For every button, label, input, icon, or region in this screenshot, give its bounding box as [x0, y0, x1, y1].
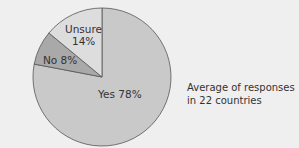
annotation-line-1: Average of responses: [187, 81, 295, 94]
pie-chart: Yes 78% No 8% Unsure 14%: [0, 0, 299, 148]
label-unsure-2: 14%: [72, 35, 95, 47]
annotation-line-2: in 22 countries: [187, 94, 295, 107]
chart-annotation: Average of responses in 22 countries: [187, 81, 295, 107]
label-unsure-1: Unsure: [65, 23, 102, 35]
label-no: No 8%: [43, 54, 77, 66]
label-yes: Yes 78%: [97, 88, 142, 100]
